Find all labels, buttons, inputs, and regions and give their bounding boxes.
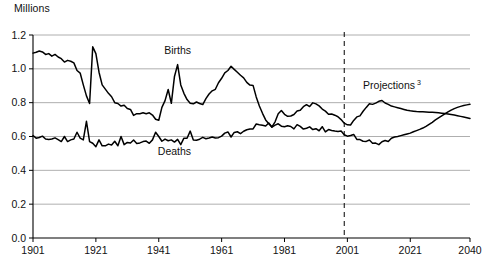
births-label: Births bbox=[164, 44, 191, 56]
chart-canvas: 0.00.20.40.60.81.01.2 190119211941196119… bbox=[0, 0, 486, 263]
x-tick-label: 1961 bbox=[210, 244, 234, 256]
y-tick-label: 1.0 bbox=[11, 62, 26, 74]
x-tick-label: 2001 bbox=[336, 244, 360, 256]
x-axis-ticks-group: 19011921194119611981200120212040 bbox=[21, 238, 482, 256]
x-tick-label: 2021 bbox=[399, 244, 423, 256]
x-tick-label: 1901 bbox=[21, 244, 45, 256]
y-tick-label: 0.6 bbox=[11, 130, 26, 142]
x-tick-label: 1981 bbox=[273, 244, 297, 256]
x-tick-label: 1941 bbox=[147, 244, 171, 256]
series-line-deaths bbox=[33, 104, 470, 146]
y-tick-label: 1.2 bbox=[11, 29, 26, 41]
y-tick-label: 0.2 bbox=[11, 198, 26, 210]
y-axis-ticks-group: 0.00.20.40.60.81.01.2 bbox=[11, 29, 33, 244]
y-tick-label: 0.4 bbox=[11, 164, 26, 176]
gridlines-group bbox=[33, 35, 470, 204]
births-deaths-chart: Millions 0.00.20.40.60.81.01.2 190119211… bbox=[0, 0, 486, 263]
y-tick-label: 0.8 bbox=[11, 96, 26, 108]
projections-label: Projections 3 bbox=[363, 79, 421, 91]
deaths-label: Deaths bbox=[158, 145, 191, 157]
x-tick-label: 1921 bbox=[84, 244, 108, 256]
x-tick-label: 2040 bbox=[458, 244, 482, 256]
y-tick-label: 0.0 bbox=[11, 232, 26, 244]
